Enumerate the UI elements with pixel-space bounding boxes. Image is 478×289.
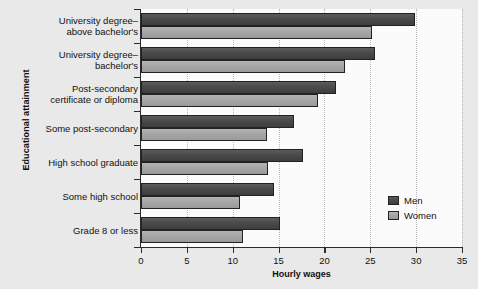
legend-item-women[interactable]: Women — [388, 208, 437, 223]
bar-women-2 — [141, 94, 318, 107]
x-axis-line — [140, 247, 463, 248]
bar-women-6 — [141, 230, 243, 243]
category-label-line: High school graduate — [22, 157, 138, 168]
x-tick-label-0: 0 — [126, 255, 156, 266]
category-label-5: Some high school — [22, 191, 138, 202]
legend-item-men[interactable]: Men — [388, 193, 437, 208]
category-label-line: Some high school — [22, 191, 138, 202]
category-label-line: University degree– — [22, 49, 138, 60]
bar-men-2 — [141, 81, 336, 94]
category-label-line: certificate or diploma — [22, 94, 138, 105]
x-tick-5 — [187, 248, 188, 253]
bar-men-4 — [141, 149, 303, 162]
bar-men-1 — [141, 47, 375, 60]
category-label-line: bachelor's — [22, 60, 138, 71]
y-tick-0 — [134, 9, 141, 10]
category-label-2: Post-secondarycertificate or diploma — [22, 83, 138, 105]
gridline-35 — [462, 9, 464, 247]
category-label-line: Post-secondary — [22, 83, 138, 94]
bar-women-0 — [141, 26, 372, 39]
x-tick-label-5: 5 — [172, 255, 202, 266]
y-tick-5 — [134, 179, 141, 180]
category-label-line: above bachelor's — [22, 26, 138, 37]
x-tick-35 — [462, 248, 463, 253]
y-tick-4 — [134, 145, 141, 146]
category-label-3: Some post-secondary — [22, 123, 138, 134]
bar-women-1 — [141, 60, 345, 73]
x-axis-title: Hourly wages — [141, 269, 462, 279]
bar-women-4 — [141, 162, 268, 175]
x-tick-20 — [324, 248, 325, 253]
x-tick-25 — [370, 248, 371, 253]
x-tick-15 — [279, 248, 280, 253]
category-label-6: Grade 8 or less — [22, 225, 138, 236]
y-tick-6 — [134, 213, 141, 214]
x-tick-0 — [141, 248, 142, 253]
bar-men-6 — [141, 217, 280, 230]
x-tick-10 — [233, 248, 234, 253]
legend: MenWomen — [388, 193, 437, 223]
bar-women-3 — [141, 128, 267, 141]
legend-label: Men — [404, 195, 422, 206]
y-tick-2 — [134, 77, 141, 78]
y-tick-3 — [134, 111, 141, 112]
x-tick-label-20: 20 — [309, 255, 339, 266]
legend-swatch-women-icon — [388, 211, 399, 220]
x-tick-label-25: 25 — [355, 255, 385, 266]
x-tick-label-15: 15 — [264, 255, 294, 266]
bar-women-5 — [141, 196, 240, 209]
x-tick-30 — [416, 248, 417, 253]
bar-men-5 — [141, 183, 274, 196]
category-label-4: High school graduate — [22, 157, 138, 168]
gridline-20 — [324, 9, 326, 247]
gridline-15 — [279, 9, 281, 247]
legend-label: Women — [404, 210, 437, 221]
bar-men-0 — [141, 13, 415, 26]
legend-swatch-men-icon — [388, 196, 399, 205]
category-label-line: Grade 8 or less — [22, 225, 138, 236]
category-label-line: University degree– — [22, 15, 138, 26]
y-tick-1 — [134, 43, 141, 44]
hourly-wages-bar-chart: Educational attainment University degree… — [0, 0, 478, 289]
category-label-line: Some post-secondary — [22, 123, 138, 134]
y-tick-end — [134, 247, 141, 248]
x-tick-label-35: 35 — [447, 255, 477, 266]
bar-men-3 — [141, 115, 294, 128]
x-tick-label-10: 10 — [218, 255, 248, 266]
category-label-1: University degree–bachelor's — [22, 49, 138, 71]
x-tick-label-30: 30 — [401, 255, 431, 266]
gridline-25 — [370, 9, 372, 247]
category-label-0: University degree–above bachelor's — [22, 15, 138, 37]
category-label-column: University degree–above bachelor'sUniver… — [22, 9, 138, 247]
